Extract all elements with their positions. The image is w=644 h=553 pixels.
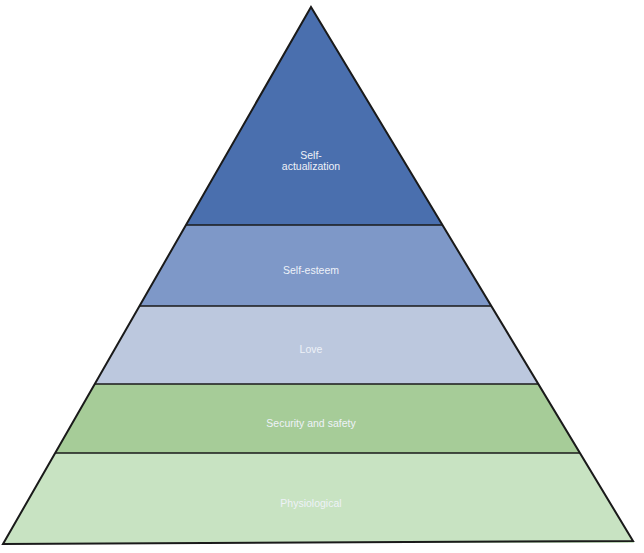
tier-label: Self-esteem [283, 264, 339, 276]
tier-label: Physiological [280, 497, 341, 509]
tier-self-actualization [186, 7, 442, 225]
tier-label: Love [300, 343, 323, 355]
tier-label: Security and safety [266, 417, 356, 429]
pyramid-diagram: Self-actualizationSelf-esteemLoveSecurit… [0, 0, 644, 553]
